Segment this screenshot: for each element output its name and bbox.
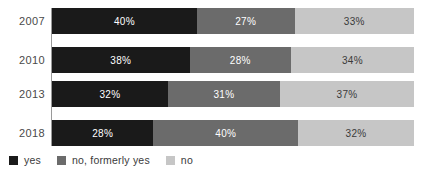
segment-value-label: 27% (235, 16, 256, 27)
stacked-bar: 38%28%34% (52, 47, 414, 73)
category-label: 2010 (0, 47, 45, 73)
chart-row: 201828%40%32% (0, 120, 424, 146)
chart-row: 201038%28%34% (0, 47, 424, 73)
segment-value-label: 32% (346, 128, 367, 139)
bar-segment: 28% (190, 47, 291, 73)
legend-swatch-icon (166, 156, 175, 165)
segment-value-label: 33% (344, 16, 365, 27)
segment-value-label: 34% (342, 55, 363, 66)
stacked-bar-chart: 200740%27%33%201038%28%34%201332%31%37%2… (0, 0, 424, 172)
legend-item[interactable]: no, formerly yes (57, 154, 150, 166)
legend-label: no (181, 154, 193, 166)
bar-segment: 33% (295, 8, 414, 34)
bar-segment: 31% (168, 81, 280, 107)
bar-segment: 32% (52, 81, 168, 107)
stacked-bar: 28%40%32% (52, 120, 414, 146)
segment-value-label: 40% (215, 128, 236, 139)
legend-item[interactable]: no (166, 154, 193, 166)
bar-segment: 38% (52, 47, 190, 73)
chart-row: 200740%27%33% (0, 8, 424, 34)
segment-value-label: 28% (92, 128, 113, 139)
segment-value-label: 38% (110, 55, 131, 66)
segment-value-label: 31% (213, 89, 234, 100)
chart-legend: yesno, formerly yesno (9, 152, 209, 168)
plot-area: 200740%27%33%201038%28%34%201332%31%37%2… (0, 0, 424, 150)
stacked-bar: 32%31%37% (52, 81, 414, 107)
legend-item[interactable]: yes (9, 154, 41, 166)
bar-segment: 37% (280, 81, 414, 107)
bar-segment: 27% (197, 8, 295, 34)
category-label: 2018 (0, 120, 45, 146)
bar-segment: 34% (291, 47, 414, 73)
segment-value-label: 40% (114, 16, 135, 27)
bar-segment: 28% (52, 120, 153, 146)
segment-value-label: 37% (337, 89, 358, 100)
stacked-bar: 40%27%33% (52, 8, 414, 34)
segment-value-label: 32% (99, 89, 120, 100)
bar-segment: 40% (153, 120, 298, 146)
bar-segment: 32% (298, 120, 414, 146)
legend-label: yes (24, 154, 41, 166)
legend-swatch-icon (9, 156, 18, 165)
segment-value-label: 28% (230, 55, 251, 66)
category-label: 2007 (0, 8, 45, 34)
chart-row: 201332%31%37% (0, 81, 424, 107)
legend-swatch-icon (57, 156, 66, 165)
category-label: 2013 (0, 81, 45, 107)
legend-label: no, formerly yes (72, 154, 150, 166)
bar-segment: 40% (52, 8, 197, 34)
